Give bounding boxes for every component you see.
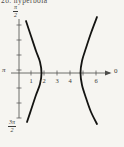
x-tick-label: 2 [42, 77, 45, 84]
hyperbola-plot-svg: 12346 [0, 0, 124, 147]
x-tick-label: 4 [68, 77, 72, 84]
axis-arrowhead-icon [105, 71, 112, 76]
x-tick-label: 1 [29, 77, 32, 84]
polar-plot: 12346 π 2 π 3π 2 0 [0, 0, 124, 147]
theta-label-0: 0 [114, 68, 118, 75]
x-tick-label: 6 [94, 77, 98, 84]
fraction-denominator: 2 [11, 127, 14, 133]
theta-label-pi: π [2, 67, 6, 74]
theta-label-pi-over-2: π 2 [13, 4, 18, 18]
hyperbola-left-branch [26, 21, 42, 122]
x-tick-label: 3 [55, 77, 58, 84]
fraction-numerator: π [13, 4, 18, 12]
figure-hyperbola: 28. hyperbola 12346 π 2 π 3π 2 0 [0, 0, 124, 147]
fraction-numerator: 3π [8, 119, 16, 127]
fraction-denominator: 2 [14, 12, 17, 18]
theta-label-3pi-over-2: 3π 2 [8, 119, 16, 133]
